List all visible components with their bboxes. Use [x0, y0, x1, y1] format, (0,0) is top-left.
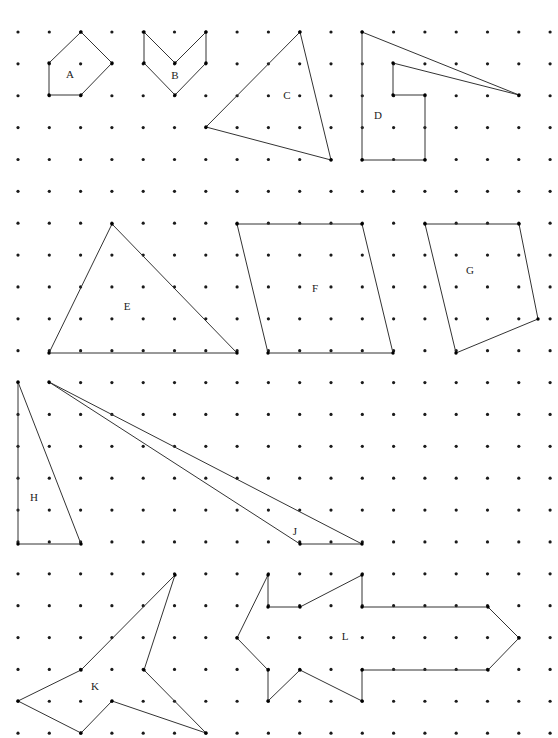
- grid-dot: [110, 30, 113, 33]
- grid-dot: [329, 636, 332, 639]
- grid-dot: [236, 253, 239, 256]
- grid-dot: [204, 190, 207, 193]
- shape-vertex: [391, 61, 394, 64]
- grid-dot: [48, 285, 51, 288]
- grid-dot: [298, 477, 301, 480]
- shape-label-h: H: [30, 491, 38, 503]
- grid-dot: [48, 445, 51, 448]
- grid-dot: [517, 349, 520, 352]
- grid-dot: [142, 477, 145, 480]
- grid-dot: [486, 253, 489, 256]
- grid-dot: [79, 604, 82, 607]
- grid-dot: [142, 190, 145, 193]
- grid-dot: [329, 349, 332, 352]
- grid-dot: [79, 222, 82, 225]
- grid-dot: [48, 222, 51, 225]
- shape-vertex: [204, 731, 207, 734]
- shape-label-d: D: [374, 109, 382, 121]
- grid-dot: [517, 668, 520, 671]
- grid-dot: [486, 30, 489, 33]
- shape-vertex: [173, 61, 176, 64]
- grid-dot: [392, 732, 395, 735]
- shape-label-l: L: [342, 630, 349, 642]
- grid-dot: [486, 285, 489, 288]
- grid-dot: [517, 253, 520, 256]
- grid-dot: [517, 477, 520, 480]
- grid-dot: [48, 732, 51, 735]
- grid-dot: [517, 700, 520, 703]
- grid-dot: [142, 732, 145, 735]
- grid-dot: [329, 477, 332, 480]
- grid-dot: [486, 572, 489, 575]
- grid-dot: [16, 285, 19, 288]
- grid-dot: [549, 190, 552, 193]
- grid-dot: [48, 126, 51, 129]
- grid-dot: [423, 285, 426, 288]
- grid-dot: [549, 732, 552, 735]
- grid-dot: [173, 158, 176, 161]
- shape-vertex: [266, 351, 269, 354]
- grid-dot: [173, 222, 176, 225]
- shape-vertex: [329, 158, 332, 161]
- grid-dot: [110, 158, 113, 161]
- grid-dot: [48, 317, 51, 320]
- grid-dot: [236, 508, 239, 511]
- shape-vertex: [142, 61, 145, 64]
- shape-vertex: [47, 61, 50, 64]
- grid-dot: [329, 253, 332, 256]
- grid-dot: [48, 413, 51, 416]
- grid-dot: [48, 253, 51, 256]
- grid-dot: [423, 317, 426, 320]
- grid-dot: [173, 381, 176, 384]
- grid-dot: [236, 126, 239, 129]
- grid-dot: [267, 158, 270, 161]
- grid-dot: [267, 540, 270, 543]
- grid-dot: [329, 381, 332, 384]
- grid-dot: [204, 540, 207, 543]
- grid-dot: [361, 285, 364, 288]
- grid-dot: [298, 700, 301, 703]
- grid-dot: [173, 190, 176, 193]
- grid-dot: [79, 158, 82, 161]
- grid-dot: [142, 572, 145, 575]
- grid-dot: [455, 317, 458, 320]
- grid-dot: [549, 477, 552, 480]
- grid-dot: [455, 285, 458, 288]
- grid-dot: [549, 253, 552, 256]
- shape-vertex: [47, 93, 50, 96]
- grid-dot: [298, 413, 301, 416]
- grid-dot: [517, 158, 520, 161]
- shape-vertex: [517, 93, 520, 96]
- grid-dot: [392, 413, 395, 416]
- grid-dot: [549, 508, 552, 511]
- grid-dot: [173, 508, 176, 511]
- grid-dot: [236, 445, 239, 448]
- grid-dot: [549, 62, 552, 65]
- shape-vertex: [142, 668, 145, 671]
- grid-dot: [549, 413, 552, 416]
- grid-dot: [392, 126, 395, 129]
- grid-dot: [79, 445, 82, 448]
- grid-dot: [392, 445, 395, 448]
- shape-label-f: F: [312, 282, 318, 294]
- shape-vertex: [423, 222, 426, 225]
- grid-dot: [79, 477, 82, 480]
- grid-dot: [517, 285, 520, 288]
- shape-vertex: [16, 542, 19, 545]
- shape-vertex: [266, 699, 269, 702]
- grid-dot: [455, 381, 458, 384]
- shape-vertex: [47, 351, 50, 354]
- grid-dot: [110, 381, 113, 384]
- grid-dot: [48, 30, 51, 33]
- grid-dot: [110, 477, 113, 480]
- shape-vertex: [536, 317, 539, 320]
- shape-vertex: [204, 30, 207, 33]
- grid-dot: [392, 317, 395, 320]
- grid-dot: [423, 636, 426, 639]
- grid-dot: [549, 381, 552, 384]
- grid-dot: [549, 285, 552, 288]
- shape-vertex: [360, 573, 363, 576]
- grid-dot: [486, 190, 489, 193]
- grid-dot: [204, 445, 207, 448]
- grid-dot: [298, 158, 301, 161]
